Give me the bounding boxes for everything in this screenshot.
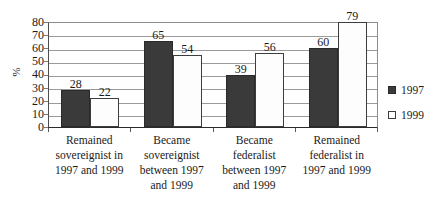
category-label: Becamefederalistbetween 1997and 1999 xyxy=(207,133,302,193)
bar-group: 2822 xyxy=(49,23,132,127)
bar-groups: 2822655439566079 xyxy=(49,23,377,127)
category-label-line: 1997 and 1999 xyxy=(42,163,137,178)
bar-group: 6554 xyxy=(132,23,215,127)
bar-group: 3956 xyxy=(214,23,297,127)
bar-1999-1: 22 xyxy=(90,98,119,127)
x-tick-mark xyxy=(130,128,131,132)
bar-1997-1: 28 xyxy=(61,90,90,127)
x-tick-mark xyxy=(377,128,378,132)
category-label-line: sovereignist xyxy=(125,148,220,163)
x-tick-mark xyxy=(295,128,296,132)
x-tick-mark xyxy=(48,128,49,132)
chart-legend: 1997 1999 xyxy=(388,84,442,134)
category-label-line: between 1997 xyxy=(125,163,220,178)
y-tick-label: 50 xyxy=(18,55,44,67)
category-label-line: Became xyxy=(125,133,220,148)
plot-area: 2822655439566079 xyxy=(48,22,378,128)
category-label-line: and 1999 xyxy=(207,178,302,193)
bar-value-label: 22 xyxy=(99,86,111,98)
bar-value-label: 28 xyxy=(70,78,82,90)
category-label-line: and 1999 xyxy=(125,178,220,193)
category-label-line: 1997 and 1999 xyxy=(290,163,385,178)
y-tick-label: 70 xyxy=(18,29,44,41)
legend-swatch-icon xyxy=(388,86,396,94)
bar-value-label: 39 xyxy=(235,63,247,75)
x-axis-category-labels: Remainedsovereignist in1997 and 1999Beca… xyxy=(48,133,378,219)
bar-value-label: 79 xyxy=(346,10,358,22)
category-label: Becamesovereignistbetween 1997and 1999 xyxy=(125,133,220,193)
legend-swatch-icon xyxy=(388,111,396,119)
legend-label: 1999 xyxy=(401,109,424,121)
category-label-line: Remained xyxy=(42,133,137,148)
category-label-line: sovereignist in xyxy=(42,148,137,163)
y-tick-label: 0 xyxy=(18,121,44,133)
bar-value-label: 65 xyxy=(152,29,164,41)
x-tick-mark xyxy=(213,128,214,132)
category-label-line: Became xyxy=(207,133,302,148)
legend-item-1999: 1999 xyxy=(388,109,442,121)
y-tick-label: 30 xyxy=(18,82,44,94)
bar-1997-4: 60 xyxy=(309,48,338,128)
category-label-line: between 1997 xyxy=(207,163,302,178)
category-label: Remainedfederalist in1997 and 1999 xyxy=(290,133,385,178)
category-label-line: federalist xyxy=(207,148,302,163)
bar-1997-2: 65 xyxy=(144,41,173,127)
y-tick-label: 10 xyxy=(18,108,44,120)
bar-1999-2: 54 xyxy=(173,55,202,127)
bar-1999-3: 56 xyxy=(255,53,284,127)
legend-item-1997: 1997 xyxy=(388,84,442,96)
category-label-line: federalist in xyxy=(290,148,385,163)
bar-value-label: 60 xyxy=(317,36,329,48)
y-tick-label: 80 xyxy=(18,16,44,28)
bar-chart: % 80 70 60 50 40 30 20 10 0 282265543956… xyxy=(0,0,442,221)
bar-value-label: 56 xyxy=(264,41,276,53)
bar-group: 6079 xyxy=(297,23,380,127)
bar-1999-4: 79 xyxy=(338,22,367,127)
y-tick-label: 40 xyxy=(18,68,44,80)
y-tick-label: 60 xyxy=(18,42,44,54)
y-axis-tick-labels: 80 70 60 50 40 30 20 10 0 xyxy=(14,0,44,221)
category-label-line: Remained xyxy=(290,133,385,148)
bar-value-label: 54 xyxy=(181,43,193,55)
category-label: Remainedsovereignist in1997 and 1999 xyxy=(42,133,137,178)
y-tick-label: 20 xyxy=(18,95,44,107)
bar-1997-3: 39 xyxy=(226,75,255,127)
legend-label: 1997 xyxy=(401,84,424,96)
